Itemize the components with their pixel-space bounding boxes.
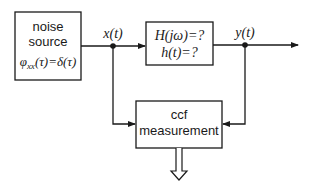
transfer-function-label: H(jω)=? — [154, 28, 205, 44]
output-signal-label: y(t) — [233, 25, 255, 41]
measurement-label: measurement — [139, 123, 219, 138]
ccf-label: ccf — [171, 107, 188, 122]
hollow-output-arrow-icon — [171, 148, 187, 180]
noise-source-block: noise source φxx(τ)=δ(τ) — [15, 12, 81, 80]
input-to-ccf-line — [113, 46, 135, 124]
output-to-ccf-line — [223, 45, 245, 124]
noise-source-label-1: noise — [32, 19, 63, 34]
noise-source-label-2: source — [28, 34, 67, 49]
system-identification-diagram: noise source φxx(τ)=δ(τ) x(t) H(jω)=? h(… — [0, 0, 313, 190]
impulse-response-label: h(t)=? — [161, 45, 198, 61]
input-signal-label: x(t) — [102, 26, 123, 42]
unknown-system-block: H(jω)=? h(t)=? — [146, 22, 213, 65]
ccf-measurement-block: ccf measurement — [136, 101, 222, 148]
